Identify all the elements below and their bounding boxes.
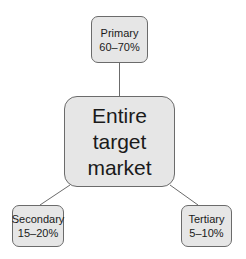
center-line-1: Entire	[92, 103, 147, 129]
node-center: Entire target market	[64, 96, 175, 187]
node-primary: Primary 60–70%	[91, 16, 148, 63]
center-line-2: target	[93, 129, 147, 155]
node-primary-value: 60–70%	[99, 40, 139, 54]
node-primary-label: Primary	[101, 26, 139, 40]
node-tertiary-value: 5–10%	[189, 226, 223, 240]
node-secondary: Secondary 15–20%	[12, 205, 64, 247]
node-secondary-value: 15–20%	[18, 226, 58, 240]
node-tertiary: Tertiary 5–10%	[181, 205, 232, 247]
connector-tertiary	[170, 185, 198, 205]
connector-secondary	[40, 185, 70, 205]
node-secondary-label: Secondary	[12, 212, 65, 226]
center-line-3: market	[87, 155, 151, 181]
node-tertiary-label: Tertiary	[188, 212, 224, 226]
